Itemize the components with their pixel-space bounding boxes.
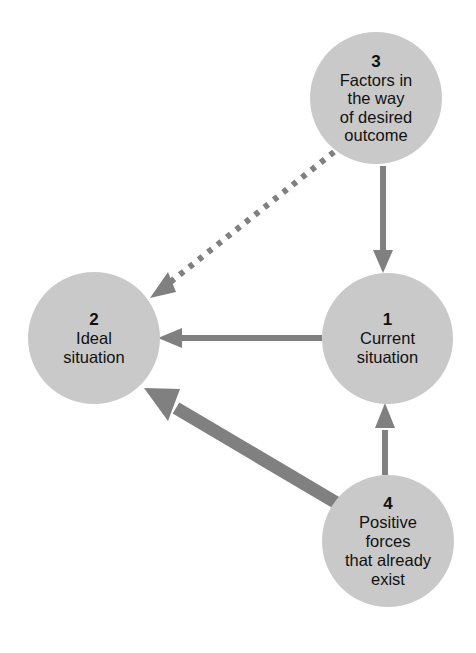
node-label: Ideal situation xyxy=(63,329,124,367)
diagram-canvas: 3 Factors in the way of desired outcome … xyxy=(0,0,476,653)
edge-node4-to-node2-arrowhead xyxy=(144,388,180,421)
edge-node4-to-node1 xyxy=(375,403,395,475)
node-label: Current situation xyxy=(357,329,418,367)
edge-node4-to-node1-arrowhead xyxy=(375,403,395,428)
edge-node3-to-node1 xyxy=(373,166,393,273)
node-label: Positive forces that already exist xyxy=(345,513,431,589)
edge-node3-to-node2-arrowhead xyxy=(150,272,176,298)
node-factors-in-the-way[interactable]: 3 Factors in the way of desired outcome xyxy=(310,32,442,164)
node-number: 3 xyxy=(371,52,380,71)
node-number: 4 xyxy=(383,494,392,513)
edge-node3-to-node2-shaft xyxy=(168,152,334,284)
edge-node4-to-node2-shaft xyxy=(176,408,352,512)
node-positive-forces[interactable]: 4 Positive forces that already exist xyxy=(322,475,454,607)
node-ideal-situation[interactable]: 2 Ideal situation xyxy=(28,272,160,404)
node-current-situation[interactable]: 1 Current situation xyxy=(322,273,453,404)
node-number: 1 xyxy=(383,310,392,329)
edge-node3-to-node1-arrowhead xyxy=(373,250,393,273)
edge-node4-to-node2 xyxy=(144,388,352,512)
edge-node1-to-node2 xyxy=(158,328,322,348)
edge-node1-to-node2-arrowhead xyxy=(158,328,182,348)
node-label: Factors in the way of desired outcome xyxy=(340,71,412,145)
edge-node3-to-node2 xyxy=(150,152,334,298)
node-number: 2 xyxy=(89,310,98,329)
